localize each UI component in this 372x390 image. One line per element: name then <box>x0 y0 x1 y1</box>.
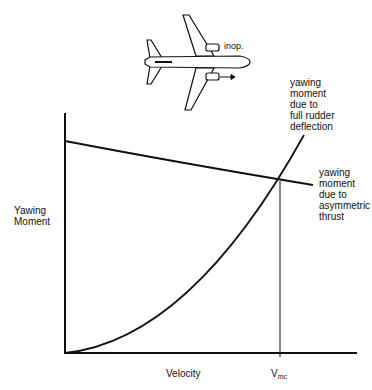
thrust-curve-label: yawing moment due to asymmetric thrust <box>319 167 370 222</box>
inop-label: inop. <box>224 41 244 52</box>
vmc-label: Vmc <box>271 368 287 382</box>
thrust-arrow-icon <box>220 75 235 80</box>
thrust-curve <box>65 141 313 185</box>
y-axis-label: Yawing Moment <box>14 205 50 227</box>
diagram-canvas <box>0 0 372 390</box>
airplane-icon <box>145 15 250 110</box>
rudder-curve-label: yawing moment due to full rudder deflect… <box>290 77 334 132</box>
x-axis-label: Velocity <box>166 368 200 379</box>
rudder-curve <box>65 135 304 353</box>
